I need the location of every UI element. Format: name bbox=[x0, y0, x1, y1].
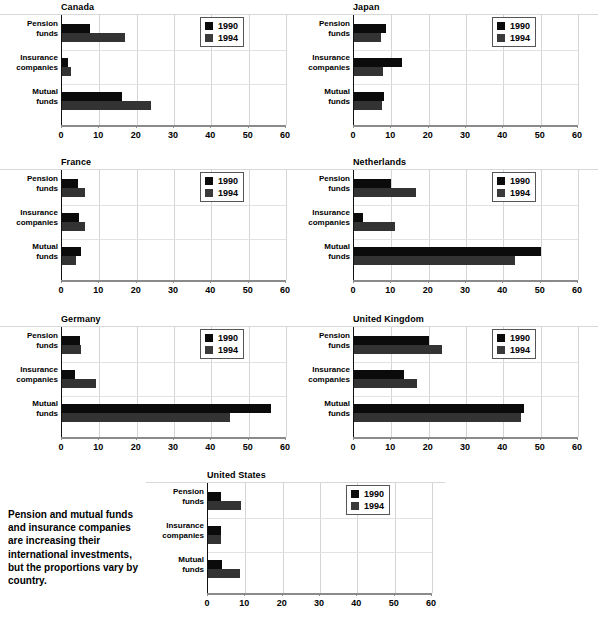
gridline-vertical bbox=[99, 170, 100, 280]
chart-panel-japan: Japan19901994PensionfundsInsurancecompan… bbox=[292, 0, 591, 155]
gridline-vertical bbox=[466, 15, 467, 125]
legend-swatch-icon bbox=[351, 490, 359, 498]
bar-1990-insurance-companies bbox=[354, 370, 404, 379]
x-axis-tick-label: 60 bbox=[566, 285, 588, 295]
bar-1990-insurance-companies bbox=[354, 58, 402, 67]
chart-panel-netherlands: Netherlands19901994PensionfundsInsurance… bbox=[292, 155, 591, 310]
bar-1994-mutual-funds bbox=[354, 101, 382, 110]
legend-swatch-icon bbox=[351, 502, 359, 510]
legend-label: 1990 bbox=[218, 176, 238, 186]
legend-label: 1990 bbox=[364, 489, 384, 499]
x-axis-tick bbox=[502, 437, 503, 440]
x-axis-tick bbox=[173, 280, 174, 283]
x-axis-tick bbox=[173, 125, 174, 128]
plot-area: 19901994 bbox=[207, 483, 431, 593]
legend-label: 1990 bbox=[510, 21, 530, 31]
x-axis-tick bbox=[61, 280, 62, 283]
x-axis-tick-label: 60 bbox=[420, 598, 442, 608]
x-axis-tick bbox=[248, 437, 249, 440]
x-axis-tick bbox=[136, 125, 137, 128]
legend-item: 1990 bbox=[205, 332, 238, 344]
x-axis-tick-label: 20 bbox=[125, 442, 147, 452]
category-label-mutual: Mutualfunds bbox=[0, 399, 58, 418]
x-axis-tick-label: 10 bbox=[379, 442, 401, 452]
legend-label: 1994 bbox=[364, 501, 384, 511]
legend: 19901994 bbox=[492, 17, 536, 47]
x-axis-tick-label: 10 bbox=[87, 442, 109, 452]
category-label-pension: Pensionfunds bbox=[134, 487, 204, 506]
bar-1990-pension-funds bbox=[354, 24, 386, 33]
legend-item: 1990 bbox=[351, 488, 384, 500]
gridline-vertical bbox=[541, 327, 542, 437]
x-axis-tick-label: 0 bbox=[342, 442, 364, 452]
gridline-vertical bbox=[429, 15, 430, 125]
x-axis-tick bbox=[502, 280, 503, 283]
bar-1990-insurance-companies bbox=[62, 58, 68, 67]
category-label-mutual: Mutualfunds bbox=[0, 242, 58, 261]
bar-1994-mutual-funds bbox=[62, 101, 151, 110]
x-axis-tick-label: 50 bbox=[529, 285, 551, 295]
x-axis-tick bbox=[390, 125, 391, 128]
x-axis-tick bbox=[502, 125, 503, 128]
figure-caption: Pension and mutual funds and insurance c… bbox=[8, 508, 148, 587]
plot-area: 19901994 bbox=[353, 15, 577, 125]
x-axis-tick-label: 60 bbox=[566, 130, 588, 140]
bar-1990-insurance-companies bbox=[62, 213, 79, 222]
x-axis-tick bbox=[285, 437, 286, 440]
legend-swatch-icon bbox=[205, 34, 213, 42]
legend: 19901994 bbox=[492, 172, 536, 202]
legend-swatch-icon bbox=[497, 22, 505, 30]
legend-label: 1994 bbox=[510, 345, 530, 355]
legend-swatch-icon bbox=[497, 177, 505, 185]
legend-item: 1994 bbox=[497, 32, 530, 44]
bar-1990-pension-funds bbox=[354, 179, 391, 188]
legend-label: 1994 bbox=[510, 33, 530, 43]
bar-1990-pension-funds bbox=[62, 336, 80, 345]
bar-1994-insurance-companies bbox=[62, 67, 71, 76]
legend-item: 1990 bbox=[205, 175, 238, 187]
x-axis-tick bbox=[390, 280, 391, 283]
x-axis-tick bbox=[210, 437, 211, 440]
x-axis-tick-label: 20 bbox=[417, 130, 439, 140]
x-axis-tick bbox=[540, 437, 541, 440]
x-axis-tick bbox=[390, 437, 391, 440]
gridline-horizontal bbox=[354, 396, 578, 397]
category-label-mutual: Mutualfunds bbox=[280, 399, 350, 418]
gridline-horizontal bbox=[62, 50, 286, 51]
gridline-horizontal bbox=[62, 396, 286, 397]
x-axis-tick bbox=[248, 125, 249, 128]
x-axis-tick bbox=[61, 125, 62, 128]
x-axis-tick-label: 20 bbox=[125, 130, 147, 140]
gridline-horizontal bbox=[62, 84, 286, 85]
legend-swatch-icon bbox=[497, 189, 505, 197]
bar-1990-insurance-companies bbox=[208, 526, 221, 535]
x-axis-tick bbox=[577, 125, 578, 128]
x-axis-tick-label: 10 bbox=[87, 130, 109, 140]
chart-panel-united-kingdom: United Kingdom19901994PensionfundsInsura… bbox=[292, 312, 591, 467]
plot-area: 19901994 bbox=[61, 327, 285, 437]
x-axis-tick bbox=[98, 125, 99, 128]
bar-1994-pension-funds bbox=[62, 188, 85, 197]
category-label-pension: Pensionfunds bbox=[280, 174, 350, 193]
gridline-vertical bbox=[249, 327, 250, 437]
x-axis-tick bbox=[540, 125, 541, 128]
x-axis-tick-label: 10 bbox=[379, 130, 401, 140]
gridline-vertical bbox=[432, 483, 433, 593]
x-axis-tick-label: 30 bbox=[454, 130, 476, 140]
bar-1994-pension-funds bbox=[62, 33, 125, 42]
x-axis-tick bbox=[540, 280, 541, 283]
x-axis-tick bbox=[353, 125, 354, 128]
bar-1990-insurance-companies bbox=[354, 213, 363, 222]
gridline-vertical bbox=[137, 170, 138, 280]
gridline-horizontal bbox=[208, 518, 432, 519]
legend-item: 1994 bbox=[497, 187, 530, 199]
x-axis-tick bbox=[244, 593, 245, 596]
bar-1990-mutual-funds bbox=[62, 404, 271, 413]
bar-1994-pension-funds bbox=[354, 188, 416, 197]
panel-title: United States bbox=[207, 470, 266, 480]
plot-area: 19901994 bbox=[353, 170, 577, 280]
x-axis-tick bbox=[356, 593, 357, 596]
gridline-vertical bbox=[174, 15, 175, 125]
bar-1994-mutual-funds bbox=[354, 256, 515, 265]
legend-item: 1994 bbox=[205, 187, 238, 199]
